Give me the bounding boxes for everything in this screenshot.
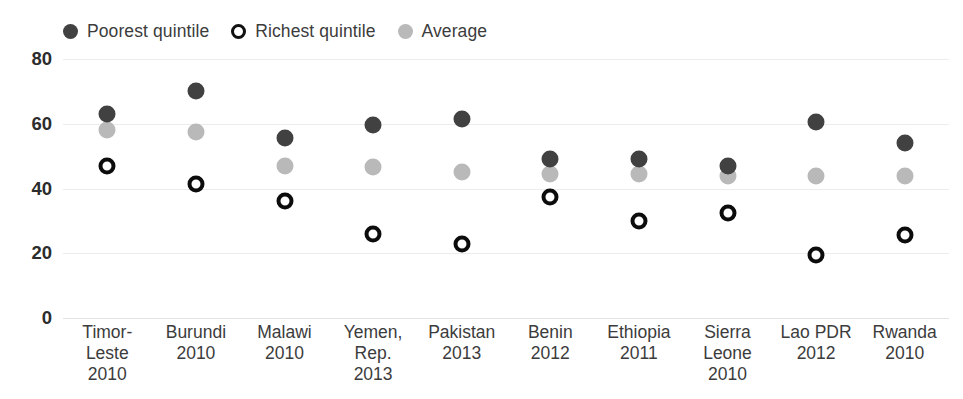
data-point-richest [365,225,382,242]
data-point-poorest [542,151,559,168]
data-point-poorest [719,157,736,174]
data-point-richest [896,227,913,244]
filled-circle-gray-icon [398,24,413,39]
data-point-average [808,167,825,184]
x-axis-label-line: 2010 [55,364,159,385]
y-axis-tick-label: 20 [6,242,52,264]
x-axis-labels: Timor-Leste2010Burundi2010Malawi2010Yeme… [63,322,949,397]
data-point-average [187,123,204,140]
gridline-80 [63,59,949,60]
data-point-average [896,167,913,184]
data-point-average [365,159,382,176]
data-point-average [542,165,559,182]
plot-area [63,59,949,318]
data-point-richest [630,212,647,229]
legend-item-label: Poorest quintile [87,21,209,42]
data-point-poorest [365,117,382,134]
data-point-richest [453,235,470,252]
data-point-average [453,164,470,181]
open-circle-black-icon [231,24,246,39]
data-point-richest [187,175,204,192]
x-axis-label-line: 2013 [321,364,425,385]
legend-item-1: Poorest quintile [63,21,209,42]
data-point-richest [808,246,825,263]
data-point-richest [542,188,559,205]
y-axis-tick-label: 40 [6,178,52,200]
y-axis-tick-label: 80 [6,48,52,70]
data-point-average [99,122,116,139]
y-axis-labels: 020406080 [0,59,52,318]
x-axis-label-line: 2010 [676,364,780,385]
legend-item-label: Average [422,21,488,42]
chart-legend: Poorest quintileRichest quintileAverage [63,18,487,44]
data-point-average [630,165,647,182]
data-point-poorest [276,130,293,147]
legend-item-3: Average [398,21,488,42]
x-axis-label-line: 2010 [853,343,957,364]
x-axis-category-label: Rwanda2010 [853,322,957,364]
gridline-0 [63,318,949,319]
data-point-poorest [99,106,116,123]
data-point-poorest [630,151,647,168]
data-point-richest [99,157,116,174]
data-point-richest [719,204,736,221]
data-point-average [276,157,293,174]
data-point-poorest [453,110,470,127]
y-axis-tick-label: 0 [6,307,52,329]
y-axis-tick-label: 60 [6,113,52,135]
legend-item-2: Richest quintile [231,21,375,42]
x-axis-label-line: Rwanda [853,322,957,343]
data-point-poorest [896,135,913,152]
data-point-poorest [187,83,204,100]
data-point-richest [276,193,293,210]
data-point-poorest [808,114,825,131]
legend-item-label: Richest quintile [255,21,375,42]
filled-circle-dark-icon [63,24,78,39]
